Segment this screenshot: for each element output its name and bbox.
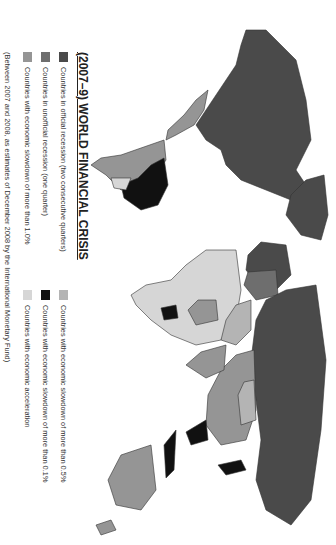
legend-item-acceleration: Countries with economic acceleration — [23, 290, 32, 427]
region-africa-0-1 — [161, 305, 178, 320]
legend-label: Countries in unofficial recession (one q… — [41, 67, 50, 216]
legend-label: Countries in official recession (two con… — [59, 67, 68, 252]
legend-source-note: (Between 2007 and 2008, as estimates of … — [3, 52, 12, 362]
legend-label: Countries with economic slowdown of more… — [41, 305, 50, 482]
map-legend: (2007–9) WORLD FINANCIAL CRISIS Countrie… — [0, 40, 90, 540]
region-eastern-europe — [244, 270, 278, 300]
legend-item-unofficial-recession: Countries in unofficial recession (one q… — [41, 52, 50, 216]
legend-label: Countries with economic acceleration — [23, 305, 32, 427]
legend-label: Countries with economic slowdown of more… — [23, 67, 32, 244]
legend-item-slowdown-1-0: Countries with economic slowdown of more… — [23, 52, 32, 244]
map-title: (2007–9) WORLD FINANCIAL CRISIS — [76, 52, 90, 260]
region-russia — [251, 285, 326, 525]
legend-item-slowdown-0-5: Countries with economic slowdown of more… — [59, 290, 68, 482]
region-japan — [218, 460, 246, 475]
legend-swatch — [23, 290, 32, 300]
region-north-america — [196, 30, 311, 200]
legend-label: Countries with economic slowdown of more… — [59, 305, 68, 482]
legend-item-slowdown-0-1: Countries with economic slowdown of more… — [41, 290, 50, 482]
legend-swatch — [59, 290, 68, 300]
legend-item-official-recession: Countries in official recession (two con… — [59, 52, 68, 252]
region-australia — [108, 445, 156, 510]
legend-swatch — [59, 52, 68, 62]
region-indonesia — [164, 430, 176, 478]
region-southeast-asia — [186, 420, 208, 445]
world-map — [86, 0, 336, 545]
region-new-zealand — [96, 520, 116, 535]
rotated-map-canvas: (2007–9) WORLD FINANCIAL CRISIS Countrie… — [0, 0, 336, 545]
legend-swatch — [41, 52, 50, 62]
legend-swatch — [41, 290, 50, 300]
legend-swatch — [23, 52, 32, 62]
